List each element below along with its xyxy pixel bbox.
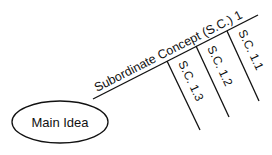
subordinate-concept-line (93, 15, 258, 99)
spider-map-diagram: Main Idea Subordinate Concept (S.C.) 1 S… (0, 0, 272, 155)
branch-label-1-2: S.C. 1.2 (204, 43, 235, 88)
main-idea-label: Main Idea (31, 115, 89, 130)
branch-label-1-1: S.C. 1.1 (235, 27, 266, 72)
branch-label-1-3: S.C. 1.3 (175, 58, 206, 103)
